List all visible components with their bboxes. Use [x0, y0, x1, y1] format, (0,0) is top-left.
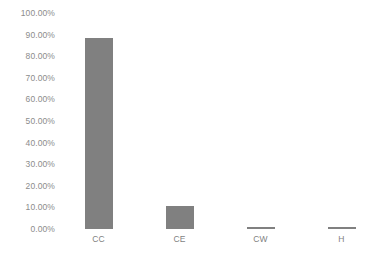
y-axis: 100.00% 90.00% 80.00% 70.00% 60.00% 50.0… [0, 0, 58, 256]
y-tick-label-20: 20.00% [0, 181, 55, 190]
y-tick-label-60: 60.00% [0, 95, 55, 104]
y-tick-label-100: 100.00% [0, 9, 55, 18]
y-tick-label-0: 0.00% [0, 225, 55, 234]
bar-group-cw: CW [220, 0, 301, 256]
y-tick-label-10: 10.00% [0, 203, 55, 212]
bar-cw[interactable] [247, 227, 275, 229]
y-tick-label-30: 30.00% [0, 160, 55, 169]
bars-layer: CC CE CW H [58, 0, 382, 256]
y-tick-label-90: 90.00% [0, 30, 55, 39]
bar-chart: 100.00% 90.00% 80.00% 70.00% 60.00% 50.0… [0, 0, 382, 256]
x-tick-label-cc: CC [92, 234, 105, 244]
y-tick-label-70: 70.00% [0, 73, 55, 82]
plot-area: CC CE CW H [58, 0, 382, 256]
bar-group-h: H [301, 0, 382, 256]
bar-cc[interactable] [85, 38, 113, 229]
x-tick-label-ce: CE [173, 234, 185, 244]
bar-ce[interactable] [166, 206, 194, 229]
x-tick-label-h: H [338, 234, 344, 244]
y-tick-label-50: 50.00% [0, 117, 55, 126]
y-tick-label-40: 40.00% [0, 138, 55, 147]
y-tick-label-80: 80.00% [0, 52, 55, 61]
x-tick-label-cw: CW [253, 234, 268, 244]
bar-h[interactable] [328, 227, 356, 229]
bar-group-cc: CC [58, 0, 139, 256]
bar-group-ce: CE [139, 0, 220, 256]
